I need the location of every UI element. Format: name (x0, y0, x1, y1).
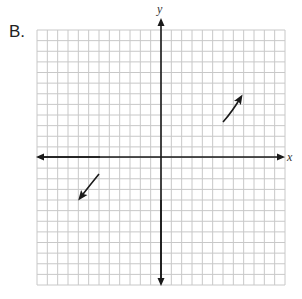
curve-segment-quadrant-3 (80, 174, 99, 198)
curve-segment-quadrant-1 (223, 97, 241, 122)
x-axis-label: x (286, 150, 293, 164)
y-axis-label: y (156, 2, 163, 16)
coordinate-plane: x y (0, 0, 302, 299)
